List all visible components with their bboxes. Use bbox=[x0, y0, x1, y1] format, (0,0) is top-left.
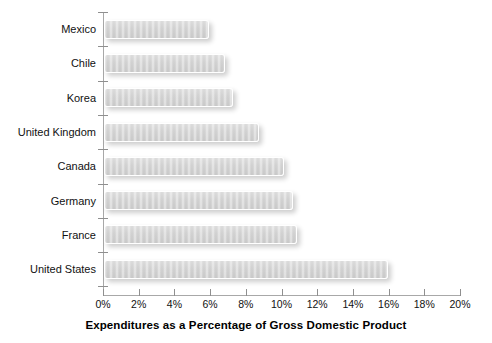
y-axis-tick bbox=[98, 184, 108, 185]
x-axis-tick bbox=[103, 289, 104, 296]
category-row: Chile bbox=[0, 46, 492, 80]
bar bbox=[104, 191, 293, 210]
x-axis-tick bbox=[246, 289, 247, 296]
bar bbox=[104, 54, 225, 73]
x-axis-title: Expenditures as a Percentage of Gross Do… bbox=[0, 319, 492, 331]
y-axis-tick bbox=[98, 218, 108, 219]
bar bbox=[104, 88, 233, 107]
bar-fill bbox=[104, 88, 233, 107]
x-axis-tick bbox=[210, 289, 211, 296]
bar-fill bbox=[104, 260, 388, 279]
x-axis-tick-label: 0% bbox=[83, 298, 123, 310]
x-axis-tick bbox=[282, 289, 283, 296]
x-axis-tick bbox=[353, 289, 354, 296]
y-axis-tick bbox=[98, 12, 108, 13]
x-axis-tick bbox=[460, 289, 461, 296]
y-axis-tick bbox=[98, 286, 108, 287]
y-axis-tick-label: United Kingdom bbox=[0, 115, 96, 149]
x-axis-tick-label: 12% bbox=[297, 298, 337, 310]
y-axis-tick-label: Chile bbox=[0, 46, 96, 80]
bar-fill bbox=[104, 123, 259, 142]
x-axis-tick bbox=[424, 289, 425, 296]
x-axis-tick bbox=[174, 289, 175, 296]
x-axis-tick-label: 14% bbox=[333, 298, 373, 310]
x-axis-tick bbox=[317, 289, 318, 296]
bar-fill bbox=[104, 20, 209, 39]
x-axis-tick-label: 6% bbox=[190, 298, 230, 310]
y-axis-tick-label: Mexico bbox=[0, 12, 96, 46]
y-axis-tick-label: Germany bbox=[0, 184, 96, 218]
y-axis-tick-label: United States bbox=[0, 252, 96, 286]
bar bbox=[104, 20, 209, 39]
x-axis-tick bbox=[389, 289, 390, 296]
y-axis-tick-label: France bbox=[0, 218, 96, 252]
x-axis-tick-label: 2% bbox=[119, 298, 159, 310]
y-axis-tick bbox=[98, 115, 108, 116]
bar-fill bbox=[104, 54, 225, 73]
category-row: Korea bbox=[0, 81, 492, 115]
x-axis-tick-label: 20% bbox=[440, 298, 480, 310]
bar bbox=[104, 225, 297, 244]
x-axis-tick-label: 4% bbox=[154, 298, 194, 310]
bar-chart: MexicoChileKoreaUnited KingdomCanadaGerm… bbox=[0, 0, 492, 343]
x-axis-tick-label: 18% bbox=[404, 298, 444, 310]
bar bbox=[104, 157, 284, 176]
category-row: Mexico bbox=[0, 12, 492, 46]
bar bbox=[104, 260, 388, 279]
x-axis-tick bbox=[139, 289, 140, 296]
y-axis-tick bbox=[98, 149, 108, 150]
bar bbox=[104, 123, 259, 142]
y-axis-tick bbox=[98, 46, 108, 47]
x-axis-tick-label: 8% bbox=[226, 298, 266, 310]
x-axis-tick-label: 16% bbox=[369, 298, 409, 310]
y-axis-tick bbox=[98, 81, 108, 82]
y-axis-tick-label: Korea bbox=[0, 81, 96, 115]
bar-fill bbox=[104, 225, 297, 244]
y-axis-tick-label: Canada bbox=[0, 149, 96, 183]
x-axis-tick-label: 10% bbox=[262, 298, 302, 310]
y-axis-tick bbox=[98, 252, 108, 253]
bar-fill bbox=[104, 157, 284, 176]
bar-fill bbox=[104, 191, 293, 210]
